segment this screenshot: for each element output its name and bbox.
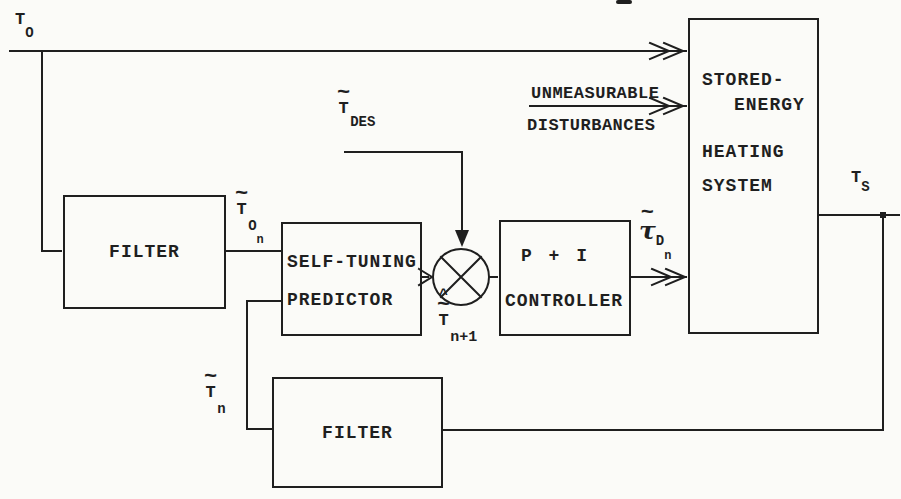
t-desired-main: T [339, 99, 349, 118]
disturbances-caption-line1: UNMEASURABLE [531, 84, 659, 104]
pi-controller-block: P + I CONTROLLER [499, 220, 631, 336]
predictor-label-line2: PREDICTOR [287, 290, 393, 310]
heating-system-block: STORED- ENERGY HEATING SYSTEM [688, 18, 819, 334]
arrowhead-t-desired [455, 230, 469, 247]
t-feedback-main: T [206, 383, 216, 402]
t-predicted-tilde: ~ [437, 300, 450, 311]
t-desired-tilde: ~ [337, 88, 350, 99]
tau-demand-sub: D [656, 234, 664, 248]
signal-t-feedback: ~ T n [204, 372, 226, 416]
t-outdoor-main: T [15, 10, 25, 29]
system-label-line2: ENERGY [734, 95, 805, 115]
filter-outdoor-block: FILTER [63, 195, 226, 309]
t-feedback-tilde: ~ [204, 372, 217, 383]
t-supply-sub: S [861, 180, 869, 194]
t-predicted-sub: n+1 [450, 331, 477, 345]
t-predicted-main: T [439, 311, 449, 330]
signal-t-desired: ~ T DES [337, 88, 375, 129]
signal-t-outdoor: T O [15, 10, 34, 40]
signal-t-predicted: ^ ~ T n+1 [437, 291, 477, 345]
line-t-outdoor-branch [42, 52, 61, 251]
cropped-text-fragment [616, 0, 632, 4]
controller-label-line2: CONTROLLER [505, 291, 623, 311]
tau-demand-main: τ [639, 219, 656, 243]
system-label-line1: STORED- [702, 70, 785, 90]
t-outdoor-filtered-tilde: ~ [235, 189, 248, 200]
signal-t-outdoor-filtered: ~ T O n [235, 189, 264, 246]
t-supply-main: T [851, 168, 861, 187]
disturbances-caption-line2: DISTURBANCES [527, 116, 655, 136]
block-diagram-heating-control: FILTER SELF-TUNING PREDICTOR P + I CONTR… [0, 0, 901, 499]
t-outdoor-filtered-main: T [237, 200, 247, 219]
signal-tau-demand: ~ τ D n [639, 208, 671, 262]
filter-feedback-label: FILTER [322, 423, 393, 443]
t-outdoor-sub: O [25, 26, 33, 40]
filter-feedback-block: FILTER [272, 377, 443, 488]
signal-t-supply: T S [851, 168, 870, 194]
self-tuning-predictor-block: SELF-TUNING PREDICTOR [281, 222, 422, 336]
controller-label-line1: P + I [521, 246, 590, 266]
line-t-desired [345, 152, 462, 231]
t-feedback-sub: n [217, 402, 225, 416]
system-label-line4: SYSTEM [702, 176, 773, 196]
system-label-line3: HEATING [702, 142, 785, 162]
junction-dot [880, 212, 886, 218]
filter-outdoor-label: FILTER [109, 242, 180, 262]
t-outdoor-filtered-subsub: n [257, 234, 264, 246]
predictor-label-line1: SELF-TUNING [287, 252, 417, 272]
tau-demand-subsub: n [664, 250, 671, 262]
t-outdoor-filtered-sub: O [248, 219, 256, 233]
t-desired-sub: DES [350, 115, 375, 129]
